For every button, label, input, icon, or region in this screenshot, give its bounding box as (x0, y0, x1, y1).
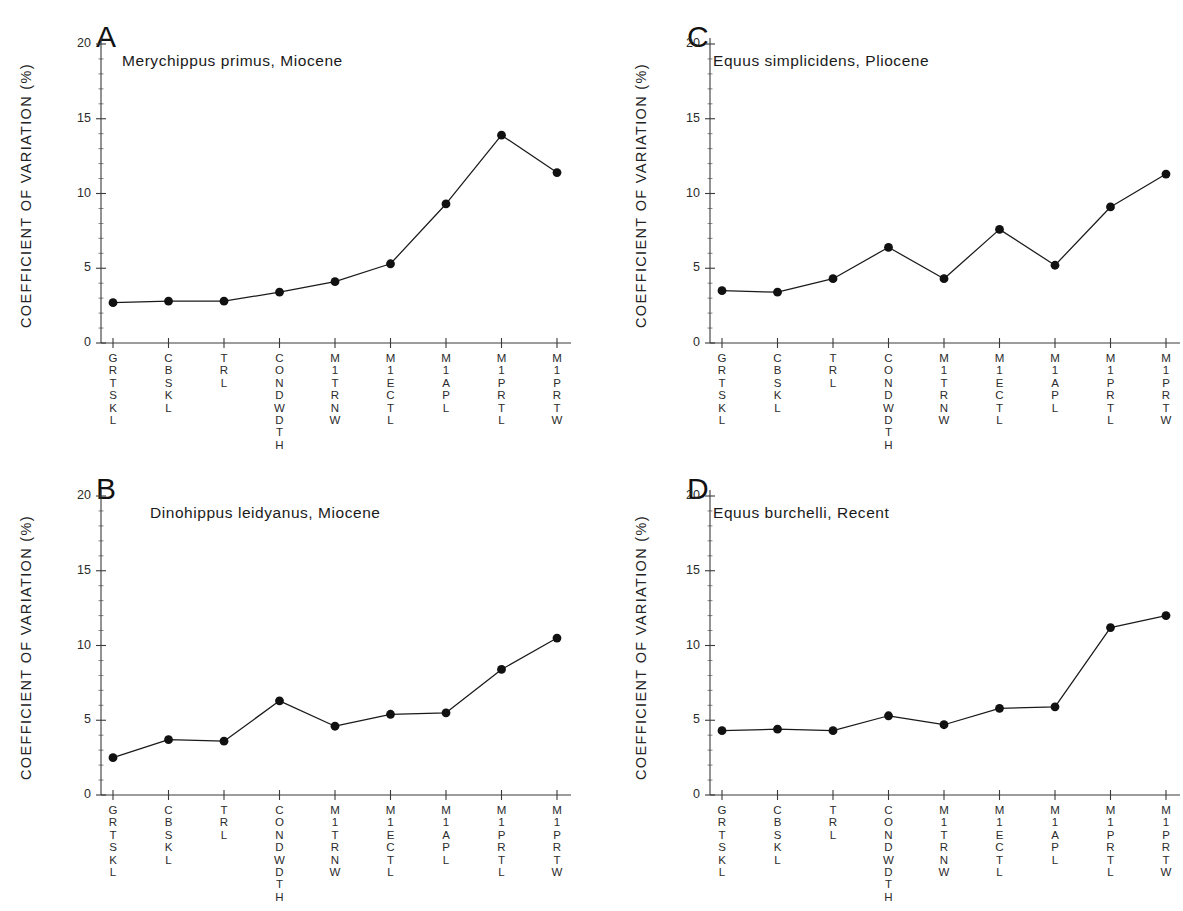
data-point[interactable] (275, 288, 284, 297)
panel-a: COEFFICIENT OF VARIATION (%) A Merychipp… (0, 0, 583, 455)
data-point[interactable] (220, 737, 229, 746)
data-point[interactable] (553, 168, 562, 177)
series-line (722, 616, 1166, 731)
data-point[interactable] (1051, 261, 1060, 270)
y-tick-label: 0 (674, 335, 700, 349)
data-point[interactable] (331, 277, 340, 286)
data-point[interactable] (829, 274, 838, 283)
y-tick-label: 15 (674, 111, 700, 125)
y-tick-label: 5 (674, 260, 700, 274)
data-point[interactable] (275, 696, 284, 705)
data-point[interactable] (386, 710, 395, 719)
data-point[interactable] (718, 726, 727, 735)
data-point[interactable] (940, 274, 949, 283)
data-point[interactable] (164, 297, 173, 306)
series-line (113, 638, 557, 758)
data-point[interactable] (829, 726, 838, 735)
data-point[interactable] (331, 722, 340, 731)
plot-area (600, 452, 1183, 907)
plot-area (0, 0, 583, 455)
data-point[interactable] (1106, 203, 1115, 212)
data-point[interactable] (220, 297, 229, 306)
data-point[interactable] (940, 720, 949, 729)
panel-d: COEFFICIENT OF VARIATION (%) D Equus bur… (600, 452, 1183, 907)
data-point[interactable] (109, 298, 118, 307)
y-tick-label: 10 (65, 638, 91, 652)
panel-b: COEFFICIENT OF VARIATION (%) B Dinohippu… (0, 452, 583, 907)
data-point[interactable] (442, 708, 451, 717)
y-tick-label: 10 (674, 638, 700, 652)
data-point[interactable] (109, 753, 118, 762)
data-point[interactable] (884, 243, 893, 252)
data-point[interactable] (1051, 702, 1060, 711)
plot-area (600, 0, 1183, 455)
y-tick-label: 20 (65, 36, 91, 50)
figure-canvas: COEFFICIENT OF VARIATION (%) A Merychipp… (0, 0, 1183, 911)
data-point[interactable] (442, 200, 451, 209)
panel-c: COEFFICIENT OF VARIATION (%) C Equus sim… (600, 0, 1183, 455)
data-point[interactable] (1162, 170, 1171, 179)
data-point[interactable] (718, 286, 727, 295)
data-point[interactable] (884, 711, 893, 720)
y-tick-label: 0 (65, 335, 91, 349)
data-point[interactable] (773, 725, 782, 734)
data-point[interactable] (1106, 623, 1115, 632)
y-tick-label: 10 (65, 186, 91, 200)
y-tick-label: 0 (65, 787, 91, 801)
y-tick-label: 5 (674, 712, 700, 726)
data-point[interactable] (553, 634, 562, 643)
data-point[interactable] (995, 225, 1004, 234)
y-tick-label: 20 (674, 488, 700, 502)
y-tick-label: 0 (674, 787, 700, 801)
y-tick-label: 5 (65, 260, 91, 274)
y-tick-label: 20 (65, 488, 91, 502)
plot-area (0, 452, 583, 907)
data-point[interactable] (773, 288, 782, 297)
data-point[interactable] (497, 665, 506, 674)
data-point[interactable] (386, 259, 395, 268)
data-point[interactable] (164, 735, 173, 744)
y-tick-label: 5 (65, 712, 91, 726)
y-tick-label: 15 (65, 111, 91, 125)
data-point[interactable] (497, 131, 506, 140)
y-tick-label: 15 (674, 563, 700, 577)
y-tick-label: 15 (65, 563, 91, 577)
y-tick-label: 20 (674, 36, 700, 50)
data-point[interactable] (1162, 611, 1171, 620)
y-tick-label: 10 (674, 186, 700, 200)
data-point[interactable] (995, 704, 1004, 713)
